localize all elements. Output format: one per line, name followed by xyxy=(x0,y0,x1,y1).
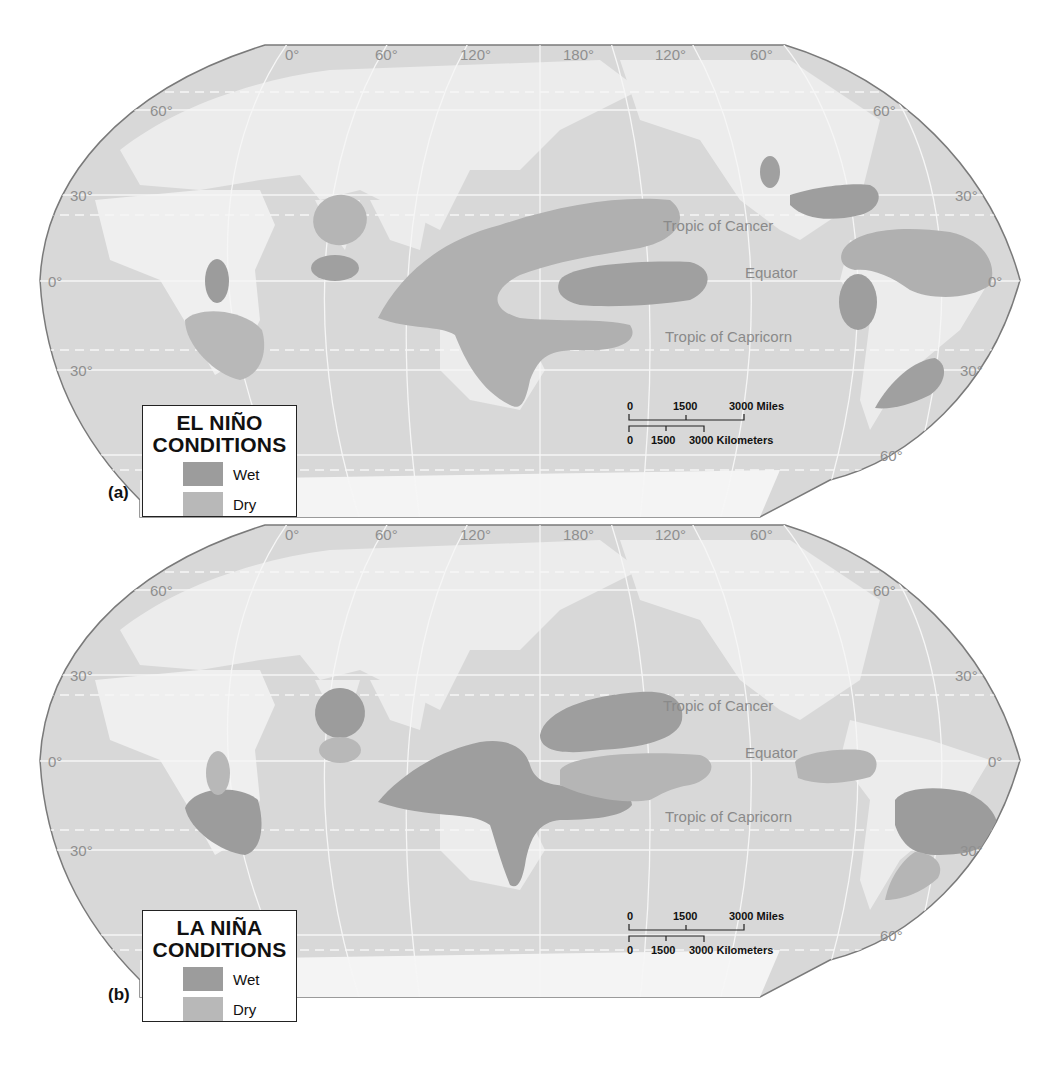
lat-label: 0° xyxy=(48,753,62,770)
equator-label: Equator xyxy=(745,264,798,281)
equator-label: Equator xyxy=(745,744,798,761)
lon-label: 60° xyxy=(750,526,773,543)
region-ecuador-peru-wet xyxy=(839,274,877,330)
scale-km-0: 0 xyxy=(627,944,633,956)
lat-label: 30° xyxy=(955,187,978,204)
region-east-africa-dry xyxy=(206,751,230,795)
lon-label: 120° xyxy=(460,46,491,63)
lat-label: 30° xyxy=(960,362,983,379)
lat-label: 60° xyxy=(150,102,173,119)
map-panel-la-nina: 0° 60° 120° 180° 120° 60° 60° 30° 0° 30°… xyxy=(0,480,1040,1067)
lon-label: 60° xyxy=(375,526,398,543)
lat-label: 60° xyxy=(880,447,903,464)
region-western-us-wet xyxy=(760,156,780,188)
legend-item-dry: Dry xyxy=(183,997,296,1021)
lat-label: 30° xyxy=(70,362,93,379)
tropic-of-cancer-label: Tropic of Cancer xyxy=(663,217,773,234)
region-east-africa-wet xyxy=(205,259,229,303)
lat-label: 30° xyxy=(70,842,93,859)
lon-label: 0° xyxy=(285,46,299,63)
wet-swatch xyxy=(183,967,223,991)
lon-label: 60° xyxy=(750,46,773,63)
dry-swatch xyxy=(183,997,223,1021)
legend-la-nina: LA NIÑA CONDITIONS Wet Dry xyxy=(142,910,297,1022)
region-sri-lanka-dry xyxy=(319,737,361,763)
legend-title-line1: EL NIÑO xyxy=(143,412,296,434)
lon-label: 120° xyxy=(460,526,491,543)
scale-bar: 0 1500 3000 Miles 0 1500 3000 Kilometers xyxy=(627,400,827,450)
scale-bar: 0 1500 3000 Miles 0 1500 3000 Kilometers xyxy=(627,910,827,960)
lon-label: 180° xyxy=(563,46,594,63)
legend-item-wet: Wet xyxy=(183,967,296,991)
lon-label: 120° xyxy=(655,526,686,543)
tropic-of-capricorn-label: Tropic of Capricorn xyxy=(665,328,792,345)
tropic-of-cancer-label: Tropic of Cancer xyxy=(663,697,773,714)
scale-km-3000: 3000 Kilometers xyxy=(689,944,773,956)
tropic-of-capricorn-label: Tropic of Capricorn xyxy=(665,808,792,825)
lat-label: 0° xyxy=(988,273,1002,290)
scale-km-1500: 1500 xyxy=(651,434,675,446)
scale-km-1500: 1500 xyxy=(651,944,675,956)
lat-label: 60° xyxy=(873,102,896,119)
lon-label: 0° xyxy=(285,526,299,543)
lat-label: 0° xyxy=(988,753,1002,770)
scale-km-3000: 3000 Kilometers xyxy=(689,434,773,446)
lat-label: 60° xyxy=(880,927,903,944)
lat-label: 60° xyxy=(873,582,896,599)
lat-label: 30° xyxy=(70,187,93,204)
legend-title-line2: CONDITIONS xyxy=(143,434,296,456)
lat-label: 0° xyxy=(48,273,62,290)
map-panel-el-nino: 0° 60° 120° 180° 120° 60° 60° 30° 0° 30°… xyxy=(0,0,1040,520)
scale-km-0: 0 xyxy=(627,434,633,446)
legend-label: Dry xyxy=(233,1001,256,1018)
panel-tag: (b) xyxy=(108,985,130,1005)
lon-label: 60° xyxy=(375,46,398,63)
region-sri-lanka-wet xyxy=(311,255,359,281)
lon-label: 180° xyxy=(563,526,594,543)
legend-title-line1: LA NIÑA xyxy=(143,917,296,939)
lat-label: 30° xyxy=(960,842,983,859)
lat-label: 30° xyxy=(955,667,978,684)
lat-label: 30° xyxy=(70,667,93,684)
legend-title-line2: CONDITIONS xyxy=(143,939,296,961)
lon-label: 120° xyxy=(655,46,686,63)
lat-label: 60° xyxy=(150,582,173,599)
legend-label: Wet xyxy=(233,971,259,988)
